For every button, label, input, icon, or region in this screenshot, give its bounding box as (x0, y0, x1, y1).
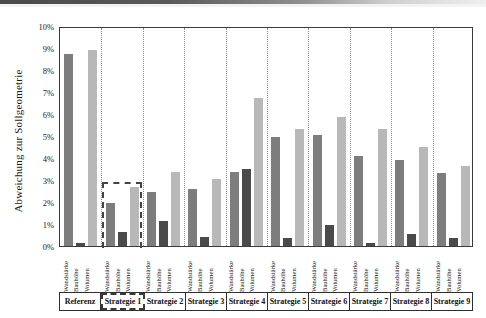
plot-inner (60, 28, 472, 246)
bar-volumen (337, 117, 346, 246)
bar-group (226, 28, 267, 246)
y-tick-label: 0% (20, 242, 54, 252)
bar-group (308, 28, 349, 246)
bar-volumen (212, 179, 221, 246)
bar-group (60, 28, 101, 246)
group-name-strategie-6: Strategie 6 (309, 293, 350, 310)
series-tick-label: Wandstärke (227, 261, 234, 292)
tick-label-cell: WandstärkeBauhöheVolumen (307, 248, 348, 292)
plot-area (59, 27, 473, 247)
bar-volumen (295, 129, 304, 246)
tick-label-cell: WandstärkeBauhöheVolumen (390, 248, 431, 292)
bar-volumen (88, 50, 97, 246)
group-name-strategie-7: Strategie 7 (350, 293, 391, 310)
bar-wandstrke (64, 54, 73, 247)
group-name-strategie-4: Strategie 4 (227, 293, 268, 310)
bar-wandstrke (354, 156, 363, 246)
group-name-strategie-8: Strategie 8 (391, 293, 432, 310)
bar-group (350, 28, 391, 246)
y-tick-label: 3% (20, 176, 54, 186)
series-tick-label: Wandstärke (62, 261, 69, 292)
series-tick-label: Volumen (207, 268, 214, 292)
y-tick-label: 8% (20, 66, 54, 76)
group-name-strategie-9: Strategie 9 (432, 293, 473, 310)
bar-volumen (461, 166, 470, 246)
bar-wandstrke (188, 189, 197, 246)
series-tick-label: Bauhöhe (403, 269, 410, 292)
bar-bauhhe (325, 225, 334, 246)
bar-bauhhe (449, 238, 458, 246)
bar-bauhhe (407, 234, 416, 246)
bar-group (143, 28, 184, 246)
bar-wandstrke (271, 137, 280, 246)
bar-volumen (378, 129, 387, 246)
chart-root: Abweichung zur Sollgeometrie 0%1%2%3%4%5… (0, 0, 486, 318)
bar-group (267, 28, 308, 246)
series-tick-label: Volumen (414, 268, 421, 292)
y-tick-label: 1% (20, 220, 54, 230)
series-tick-label: Wandstärke (434, 261, 441, 292)
series-tick-label: Volumen (455, 268, 462, 292)
tick-label-cell: WandstärkeBauhöheVolumen (266, 248, 307, 292)
series-tick-label: Wandstärke (103, 261, 110, 292)
series-tick-label: Wandstärke (351, 261, 358, 292)
series-tick-label: Volumen (372, 268, 379, 292)
bar-wandstrke (230, 172, 239, 246)
bar-wandstrke (147, 192, 156, 246)
series-tick-label: Volumen (290, 268, 297, 292)
group-name-referenz: Referenz (60, 293, 101, 310)
series-tick-label: Volumen (331, 268, 338, 292)
series-tick-label: Bauhöhe (362, 269, 369, 292)
series-tick-label: Bauhöhe (196, 269, 203, 292)
series-tick-label: Wandstärke (269, 261, 276, 292)
series-tick-labels: WandstärkeBauhöheVolumenWandstärkeBauhöh… (59, 247, 473, 292)
series-tick-label: Wandstärke (310, 261, 317, 292)
bar-wandstrke (437, 173, 446, 246)
bar-bauhhe (76, 243, 85, 246)
bar-bauhhe (159, 221, 168, 246)
group-name-row: ReferenzStrategie 1Strategie 2Strategie … (59, 292, 473, 311)
bar-group (391, 28, 432, 246)
y-tick-label: 9% (20, 44, 54, 54)
bar-bauhhe (242, 169, 251, 246)
series-tick-label: Wandstärke (144, 261, 151, 292)
bar-group (433, 28, 474, 246)
series-tick-label: Volumen (165, 268, 172, 292)
bar-volumen (419, 147, 428, 246)
y-tick-label: 6% (20, 110, 54, 120)
bar-volumen (171, 172, 180, 246)
series-tick-label: Volumen (83, 268, 90, 292)
bar-wandstrke (395, 160, 404, 246)
tick-label-cell: WandstärkeBauhöheVolumen (432, 248, 473, 292)
y-tick-label: 10% (20, 22, 54, 32)
highlight-box-strategie-1 (102, 182, 141, 248)
bar-bauhhe (366, 243, 375, 246)
tick-label-cell: WandstärkeBauhöheVolumen (349, 248, 390, 292)
group-name-strategie-2: Strategie 2 (145, 293, 186, 310)
series-tick-label: Bauhöhe (445, 269, 452, 292)
series-tick-label: Wandstärke (186, 261, 193, 292)
y-tick-label: 5% (20, 132, 54, 142)
bar-bauhhe (200, 237, 209, 246)
tick-label-cell: WandstärkeBauhöheVolumen (59, 248, 100, 292)
bar-bauhhe (283, 238, 292, 246)
series-tick-label: Bauhöhe (238, 269, 245, 292)
bar-group (184, 28, 225, 246)
group-name-strategie-5: Strategie 5 (268, 293, 309, 310)
group-name-strategie-1: Strategie 1 (101, 293, 145, 310)
bar-wandstrke (313, 135, 322, 246)
tick-label-cell: WandstärkeBauhöheVolumen (183, 248, 224, 292)
y-tick-label: 2% (20, 198, 54, 208)
scan-artifact-strip-light (0, 4, 486, 7)
tick-label-cell: WandstärkeBauhöheVolumen (225, 248, 266, 292)
series-tick-label: Bauhöhe (114, 269, 121, 292)
series-tick-label: Bauhöhe (155, 269, 162, 292)
y-tick-label: 4% (20, 154, 54, 164)
series-tick-label: Bauhöhe (72, 269, 79, 292)
tick-label-cell: WandstärkeBauhöheVolumen (142, 248, 183, 292)
tick-label-cell: WandstärkeBauhöheVolumen (100, 248, 141, 292)
y-tick-label: 7% (20, 88, 54, 98)
series-tick-label: Bauhöhe (279, 269, 286, 292)
series-tick-label: Volumen (124, 268, 131, 292)
series-tick-label: Wandstärke (393, 261, 400, 292)
